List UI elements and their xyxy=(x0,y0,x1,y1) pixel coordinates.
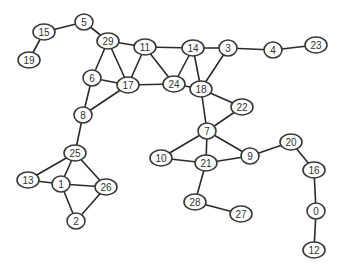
node-19: 19 xyxy=(18,52,40,68)
node-5: 5 xyxy=(75,14,93,30)
node-label: 6 xyxy=(89,73,95,84)
node-label: 21 xyxy=(200,158,212,169)
node-label: 10 xyxy=(155,153,167,164)
node-label: 23 xyxy=(310,40,322,51)
node-label: 13 xyxy=(22,175,34,186)
node-8: 8 xyxy=(74,107,92,123)
node-27: 27 xyxy=(230,206,252,222)
node-label: 5 xyxy=(81,17,87,28)
node-label: 19 xyxy=(23,55,35,66)
node-13: 13 xyxy=(17,172,39,188)
node-12: 12 xyxy=(303,242,325,258)
node-3: 3 xyxy=(219,40,237,56)
node-label: 9 xyxy=(247,151,253,162)
node-22: 22 xyxy=(231,99,253,115)
node-label: 18 xyxy=(195,84,207,95)
node-26: 26 xyxy=(95,179,117,195)
node-11: 11 xyxy=(134,39,156,55)
node-7: 7 xyxy=(198,123,216,139)
node-15: 15 xyxy=(33,24,55,40)
node-23: 23 xyxy=(305,37,327,53)
graph-nodes: 5151929111434236172418228725131262102192… xyxy=(17,14,327,258)
node-label: 22 xyxy=(236,102,248,113)
node-label: 14 xyxy=(187,43,199,54)
network-graph: 5151929111434236172418228725131262102192… xyxy=(0,0,343,271)
node-label: 20 xyxy=(285,137,297,148)
node-label: 12 xyxy=(308,245,320,256)
node-16: 16 xyxy=(303,162,325,178)
node-1: 1 xyxy=(52,176,70,192)
node-label: 2 xyxy=(73,216,79,227)
node-14: 14 xyxy=(182,40,204,56)
node-6: 6 xyxy=(83,70,101,86)
node-label: 26 xyxy=(100,182,112,193)
node-label: 1 xyxy=(58,179,64,190)
node-label: 0 xyxy=(313,206,319,217)
node-label: 24 xyxy=(168,79,180,90)
node-20: 20 xyxy=(280,134,302,150)
node-label: 29 xyxy=(102,36,114,47)
node-label: 15 xyxy=(38,27,50,38)
node-29: 29 xyxy=(97,33,119,49)
node-17: 17 xyxy=(117,77,139,93)
node-label: 3 xyxy=(225,43,231,54)
node-label: 27 xyxy=(235,209,247,220)
node-label: 17 xyxy=(122,80,134,91)
node-label: 25 xyxy=(69,148,81,159)
node-9: 9 xyxy=(241,148,259,164)
node-24: 24 xyxy=(163,76,185,92)
node-label: 4 xyxy=(270,45,276,56)
node-2: 2 xyxy=(67,213,85,229)
node-0: 0 xyxy=(307,203,325,219)
node-label: 8 xyxy=(80,110,86,121)
node-4: 4 xyxy=(264,42,282,58)
node-21: 21 xyxy=(195,155,217,171)
node-10: 10 xyxy=(150,150,172,166)
node-28: 28 xyxy=(184,194,206,210)
node-18: 18 xyxy=(190,81,212,97)
node-label: 16 xyxy=(308,165,320,176)
node-label: 11 xyxy=(140,42,151,53)
node-label: 7 xyxy=(204,126,210,137)
node-25: 25 xyxy=(64,145,86,161)
node-label: 28 xyxy=(189,197,201,208)
